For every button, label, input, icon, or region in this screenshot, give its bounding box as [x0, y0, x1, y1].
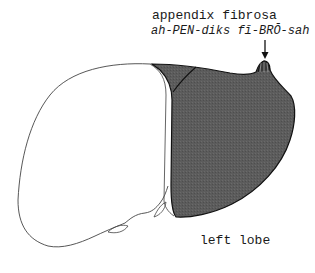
left-lobe-shaded [152, 61, 295, 217]
region-label: left lobe [200, 233, 270, 248]
pointer-arrow-icon [262, 40, 269, 59]
structure-label: appendix fibrosa [152, 8, 277, 23]
liver-diagram: appendix fibrosa ah-PEN-diks fī-BRŌ-sah … [0, 0, 315, 273]
right-lobe-outline [18, 64, 168, 247]
pronunciation-label: ah-PEN-diks fī-BRŌ-sah [151, 24, 309, 38]
inferior-lobule-outline [108, 225, 128, 233]
